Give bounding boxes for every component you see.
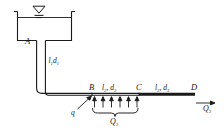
flow-label-q: q [71, 109, 75, 117]
pipe-label-l1d1: l1d1 [49, 57, 59, 65]
node-label-c: C [136, 83, 142, 92]
pipe-vertical-l1d1 [37, 41, 92, 96]
pipe-network-svg [0, 0, 224, 135]
flow-label-q3: Q3 [203, 105, 211, 113]
outflow-arrow [135, 97, 139, 108]
reservoir-tank [14, 12, 75, 41]
distributed-outflow-arrows [93, 97, 139, 108]
outflow-arrow [93, 97, 97, 108]
node-label-b: B [89, 83, 94, 92]
pipe-label-l2d2: l2, d2 [102, 84, 116, 92]
outflow-arrow [118, 97, 122, 108]
outflow-arrow [101, 97, 105, 108]
outflow-arrow [127, 97, 131, 108]
node-label-a: A [25, 37, 30, 46]
node-label-d: D [191, 83, 197, 92]
distributed-outflow-brace [93, 109, 139, 117]
flow-label-q1: Q1 [110, 118, 118, 126]
pipe-segment-bc-l2d2 [92, 93, 139, 96]
outflow-arrow [110, 97, 114, 108]
pipe-label-l3d3: l3, d3 [155, 84, 169, 92]
water-level-icon [33, 6, 45, 17]
lateral-inflow-arrow-q [78, 96, 92, 109]
hydraulic-diagram: A l1d1 B l2, d2 C l3, d3 D q Q1 Q3 [0, 0, 224, 135]
